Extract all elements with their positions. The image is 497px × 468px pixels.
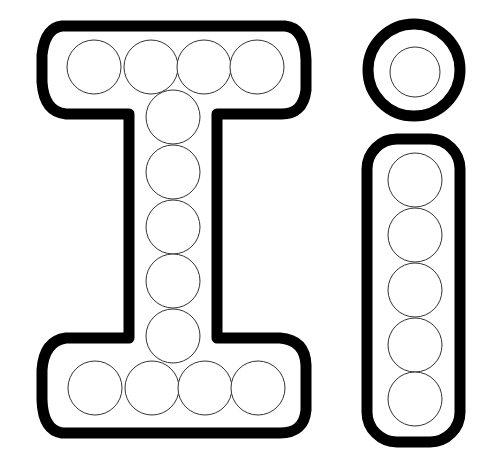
marker-dot: [124, 40, 178, 94]
marker-dot: [68, 361, 122, 415]
marker-dot: [390, 47, 440, 97]
marker-dot: [146, 309, 200, 363]
marker-dot: [388, 318, 442, 372]
marker-dot: [125, 361, 179, 415]
marker-dot: [177, 40, 231, 94]
marker-dot: [146, 254, 200, 308]
letter-i-worksheet: [0, 0, 497, 468]
marker-dot: [388, 153, 442, 207]
marker-dot: [178, 361, 232, 415]
marker-dot: [67, 40, 121, 94]
marker-dot: [388, 372, 442, 426]
marker-dot: [231, 361, 285, 415]
marker-dot: [230, 40, 284, 94]
marker-dot: [388, 263, 442, 317]
marker-dot: [146, 145, 200, 199]
marker-dot: [146, 200, 200, 254]
marker-dot: [388, 208, 442, 262]
marker-dot: [146, 90, 200, 144]
